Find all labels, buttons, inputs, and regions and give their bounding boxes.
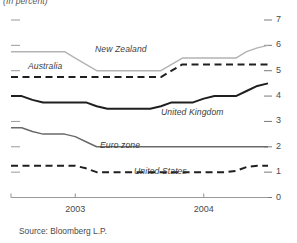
series-label-australia: Australia (28, 61, 62, 71)
x-tick-label-2004: 2004 (184, 204, 224, 214)
y-tick-label-1: 1 (276, 166, 290, 176)
plot-area (0, 0, 297, 243)
y-tick-label-7: 7 (276, 14, 290, 24)
y-tick-label-2: 2 (276, 141, 290, 151)
series-line-united-kingdom (11, 83, 268, 108)
y-tick-label-4: 4 (276, 90, 290, 100)
interest-rate-line-chart: (In percent) 01234567 20032004 New Zeala… (0, 0, 297, 243)
series-label-united-kingdom: United Kingdom (161, 107, 224, 117)
y-tick-label-0: 0 (276, 192, 290, 202)
y-tick-label-3: 3 (276, 115, 290, 125)
series-label-united-states: United States (134, 166, 187, 176)
series-label-new-zealand: New Zealand (95, 44, 147, 54)
series-label-euro-zone: Euro zone (100, 140, 140, 150)
y-tick-label-5: 5 (276, 65, 290, 75)
source-note: Source: Bloomberg L.P. (19, 226, 107, 236)
x-tick-label-2003: 2003 (55, 204, 95, 214)
y-tick-label-6: 6 (276, 39, 290, 49)
